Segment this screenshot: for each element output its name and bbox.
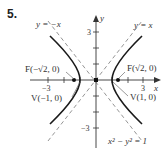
y-tick-label-3: 3 xyxy=(87,28,91,37)
origin-point xyxy=(94,78,98,82)
focus-left-leader xyxy=(66,72,74,79)
vertex-left-label: V(−1, 0) xyxy=(31,93,62,103)
hyperbola-graph: y x 3 −3 −3 3 y = −x y = x F(−√2, 0) F(√… xyxy=(0,0,167,151)
vertex-right-label: V(1, 0) xyxy=(130,92,156,102)
focus-right-leader xyxy=(119,72,125,78)
asymptote-pos-label: y = x xyxy=(133,20,153,30)
y-axis-arrow-icon xyxy=(93,15,99,22)
vertex-left-leader xyxy=(72,82,80,97)
focus-left-label: F(−√2, 0) xyxy=(25,64,60,74)
y-tick-label-neg3: −3 xyxy=(81,124,90,133)
asymptote-neg-label: y = −x xyxy=(35,19,61,29)
equation-label: x² − y² = 1 xyxy=(107,136,147,146)
y-axis-label: y xyxy=(99,13,104,23)
focus-left-point xyxy=(72,78,76,82)
vertex-right-leader xyxy=(113,82,128,96)
focus-right-label: F(√2, 0) xyxy=(127,63,156,73)
focus-right-point xyxy=(116,78,120,82)
x-tick-label-neg3: −3 xyxy=(42,84,51,93)
